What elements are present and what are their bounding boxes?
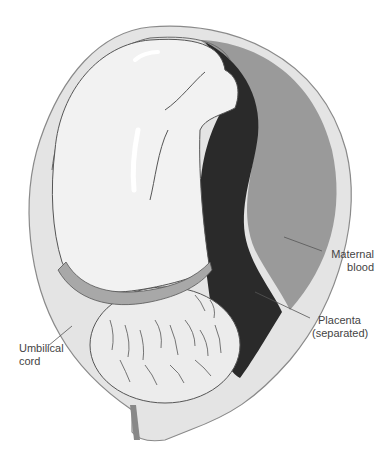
label-line: Umbilical — [19, 342, 64, 355]
label-maternal-blood: Maternal blood — [318, 248, 374, 274]
label-line: Maternal — [318, 248, 374, 261]
label-line: (separated) — [312, 327, 368, 340]
label-placenta: Placenta (separated) — [312, 314, 368, 340]
placental-abruption-diagram — [0, 0, 386, 451]
label-line: blood — [318, 261, 374, 274]
label-line: cord — [19, 355, 64, 368]
label-line: Placenta — [312, 314, 368, 327]
label-umbilical-cord: Umbilical cord — [19, 342, 64, 368]
